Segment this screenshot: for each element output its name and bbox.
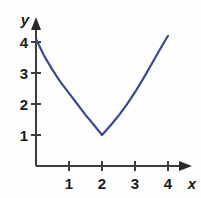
x-axis-label: x bbox=[187, 175, 197, 192]
x-tick-label-3: 3 bbox=[131, 175, 139, 192]
y-axis-label: y bbox=[20, 11, 30, 28]
x-tick-label-2: 2 bbox=[98, 175, 106, 192]
y-axis-arrow-icon bbox=[31, 17, 41, 30]
x-tick-label-1: 1 bbox=[65, 175, 73, 192]
y-tick-label-1: 1 bbox=[20, 127, 28, 144]
y-tick-label-2: 2 bbox=[20, 96, 28, 113]
x-axis-arrow-icon bbox=[179, 161, 192, 171]
y-tick-label-3: 3 bbox=[20, 65, 28, 82]
x-tick-label-4: 4 bbox=[164, 175, 173, 192]
plot-canvas: 1 2 3 4 1 2 3 4 x y bbox=[0, 0, 201, 198]
y-tick-label-4: 4 bbox=[20, 34, 29, 51]
function-graph-figure: 1 2 3 4 1 2 3 4 x y bbox=[0, 0, 201, 198]
curve-line bbox=[36, 36, 168, 135]
